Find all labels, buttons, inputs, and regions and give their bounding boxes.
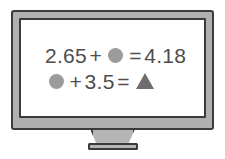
gray-circle-icon (108, 48, 123, 63)
number-2-65: 2.65 (45, 45, 87, 66)
gray-circle-icon (49, 74, 64, 89)
number-4-18: 4.18 (144, 45, 186, 66)
equation-row-2: + 3.5 = (45, 71, 204, 92)
plus-operator: + (67, 71, 85, 92)
illustration-canvas: 2.65 + = 4.18 + 3.5 = (0, 0, 225, 159)
equation-row-1: 2.65 + = 4.18 (45, 45, 204, 66)
equals-operator: = (115, 71, 133, 92)
number-3-5: 3.5 (85, 71, 115, 92)
gray-triangle-icon (136, 73, 154, 89)
monitor-screen: 2.65 + = 4.18 + 3.5 = (21, 20, 204, 116)
monitor-stand-base (88, 143, 138, 150)
equals-operator: = (127, 45, 145, 66)
computer-monitor: 2.65 + = 4.18 + 3.5 = (11, 10, 214, 130)
monitor-stand-neck (91, 130, 135, 144)
monitor-bezel: 2.65 + = 4.18 + 3.5 = (19, 18, 206, 118)
plus-operator: + (87, 45, 105, 66)
